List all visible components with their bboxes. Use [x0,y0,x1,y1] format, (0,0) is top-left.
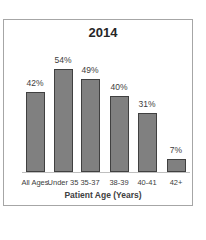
x-axis-line [22,172,190,173]
bar-all-ages [26,92,45,172]
bar-40-41 [138,113,157,172]
value-label: 49% [75,65,105,75]
bar-38-39 [110,96,129,172]
value-label: 7% [161,145,191,155]
chart-title: 2014 [0,25,206,40]
value-label: 42% [20,78,50,88]
value-label: 54% [48,55,78,65]
category-label: 42+ [158,178,194,187]
bar-42- [167,159,186,172]
bar-under-35 [54,69,73,172]
value-label: 31% [132,99,162,109]
value-label: 40% [104,82,134,92]
bar-35-37 [81,79,100,172]
x-axis-label: Patient Age (Years) [0,190,206,200]
